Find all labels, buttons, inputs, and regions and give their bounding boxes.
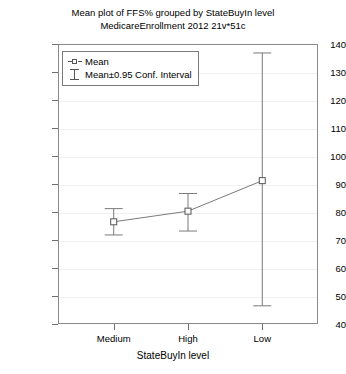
y-axis-tick-label: 80 [300, 207, 346, 218]
mean-plot-chart: Mean plot of FFS% grouped by StateBuyIn … [0, 0, 346, 374]
legend-item-mean: Mean [67, 55, 192, 68]
mean-marker-icon [67, 55, 83, 68]
y-axis-tick-label: 110 [300, 123, 346, 134]
y-axis-tick [52, 156, 58, 157]
y-axis-tick [52, 44, 58, 45]
y-axis-tick-label: 140 [300, 39, 346, 50]
y-axis-tick-label: 130 [300, 67, 346, 78]
y-axis-tick [52, 212, 58, 213]
error-bar-icon [67, 68, 83, 81]
gridline [59, 101, 317, 102]
y-axis-tick [52, 128, 58, 129]
x-axis-title: StateBuyIn level [0, 350, 346, 361]
x-axis-tick [262, 324, 263, 330]
y-axis-tick-label: 40 [300, 319, 346, 330]
y-axis-tick-label: 100 [300, 151, 346, 162]
x-axis-tick-label: Low [254, 333, 271, 344]
gridline [59, 129, 317, 130]
y-axis-tick [52, 240, 58, 241]
x-axis-tick-label: Medium [97, 333, 131, 344]
y-axis-tick-label: 90 [300, 179, 346, 190]
gridline [59, 185, 317, 186]
y-axis-tick [52, 296, 58, 297]
plot-area [58, 44, 318, 324]
y-axis-tick [52, 324, 58, 325]
y-axis-tick [52, 268, 58, 269]
chart-subtitle: MedicareEnrollment 2012 21v*51c [0, 19, 346, 32]
y-axis-tick-label: 70 [300, 235, 346, 246]
gridline [59, 241, 317, 242]
x-axis-tick [188, 324, 189, 330]
gridline [59, 213, 317, 214]
y-axis-tick [52, 184, 58, 185]
y-axis-tick [52, 100, 58, 101]
x-axis-tick [114, 324, 115, 330]
legend-item-conf-interval: Mean±0.95 Conf. Interval [67, 68, 192, 81]
gridline [59, 297, 317, 298]
y-axis-tick-label: 50 [300, 291, 346, 302]
gridline [59, 157, 317, 158]
chart-title-block: Mean plot of FFS% grouped by StateBuyIn … [0, 6, 346, 32]
chart-title: Mean plot of FFS% grouped by StateBuyIn … [0, 6, 346, 19]
legend-label-mean: Mean [83, 56, 109, 67]
gridline [59, 269, 317, 270]
legend: Mean Mean±0.95 Conf. Interval [62, 51, 199, 86]
legend-label-conf-interval: Mean±0.95 Conf. Interval [83, 69, 192, 80]
x-axis-tick-label: High [178, 333, 198, 344]
y-axis-tick-label: 60 [300, 263, 346, 274]
y-axis-tick [52, 72, 58, 73]
y-axis-tick-label: 120 [300, 95, 346, 106]
